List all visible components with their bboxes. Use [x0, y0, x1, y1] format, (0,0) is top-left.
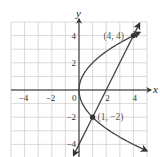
y-tick-label: 4	[72, 31, 77, 41]
x-tick-label: 4	[132, 93, 137, 103]
intersection-point	[90, 115, 95, 120]
x-tick-label: −2	[46, 93, 56, 103]
y-axis-label: y	[75, 7, 81, 19]
curves	[74, 23, 147, 155]
x-axis-label: x	[152, 83, 158, 95]
point-label: (1, −2)	[98, 112, 124, 123]
intersection-point	[131, 33, 136, 38]
x-tick-label: 0	[72, 93, 77, 103]
x-tick-label: 2	[105, 93, 110, 103]
graph: xy (4, 4)(1, −2) −4−202442−2−4	[0, 0, 160, 157]
y-tick-label: 2	[72, 58, 77, 68]
parabola-curve	[79, 33, 147, 151]
point-label: (4, 4)	[103, 31, 124, 42]
y-tick-label: −4	[66, 139, 76, 149]
x-tick-label: −4	[19, 93, 29, 103]
y-tick-label: −2	[66, 112, 76, 122]
